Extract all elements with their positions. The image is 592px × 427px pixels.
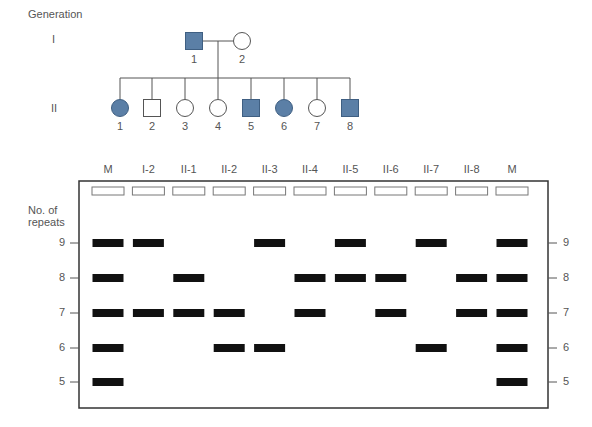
dna-band [93,378,124,386]
lane-label: II-8 [452,163,492,175]
repeat-tick-label-right: 6 [563,341,569,353]
gel-well [92,187,124,195]
lane-label: M [492,163,532,175]
dna-band [295,309,326,317]
repeat-tick-label-left: 7 [59,306,65,318]
dna-band [214,344,245,352]
gel-well [334,187,366,195]
dna-band [173,309,204,317]
gel-well [375,187,407,195]
dna-band [214,309,245,317]
gel-well [456,187,488,195]
gel-well [294,187,326,195]
dna-band [133,309,164,317]
dna-band [497,309,528,317]
lane-label: II-6 [371,163,411,175]
dna-band [295,274,326,282]
lane-label: II-5 [330,163,370,175]
dna-band [375,274,406,282]
dna-band [335,239,366,247]
gel-well [173,187,205,195]
repeat-tick-label-right: 5 [563,375,569,387]
dna-band [254,344,285,352]
repeat-tick-label-right: 8 [563,271,569,283]
dna-band [497,378,528,386]
repeat-tick-label-left: 5 [59,375,65,387]
lane-label: II-3 [250,163,290,175]
lane-label: M [88,163,128,175]
dna-band [335,274,366,282]
lane-label: II-2 [209,163,249,175]
dna-band [497,274,528,282]
gel-well [496,187,528,195]
gel-well [132,187,164,195]
dna-band [93,274,124,282]
lane-label: I-2 [128,163,168,175]
lane-label: II-4 [290,163,330,175]
repeat-tick-label-right: 9 [563,236,569,248]
dna-band [497,239,528,247]
dna-band [254,239,285,247]
repeat-tick-label-right: 7 [563,306,569,318]
dna-band [93,309,124,317]
lane-label: II-1 [169,163,209,175]
dna-band [173,274,204,282]
lane-label: II-7 [411,163,451,175]
gel-electrophoresis [0,0,592,427]
dna-band [93,344,124,352]
repeat-tick-label-left: 9 [59,236,65,248]
dna-band [497,344,528,352]
gel-well [415,187,447,195]
repeat-tick-label-left: 6 [59,341,65,353]
gel-well [254,187,286,195]
dna-band [375,309,406,317]
gel-well [213,187,245,195]
dna-band [133,239,164,247]
dna-band [416,344,447,352]
dna-band [416,239,447,247]
dna-band [93,239,124,247]
dna-band [456,274,487,282]
repeat-tick-label-left: 8 [59,271,65,283]
dna-band [456,309,487,317]
